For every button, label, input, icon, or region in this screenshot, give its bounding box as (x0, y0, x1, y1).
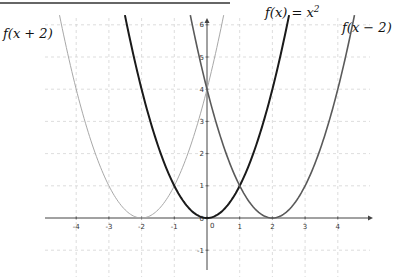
x-tick-label: -4 (73, 223, 81, 231)
x-tick-label: -1 (171, 223, 178, 231)
x-tick-label: -2 (138, 223, 145, 231)
x-tick-label: 3 (303, 223, 307, 231)
label-f-x-exponent: 2 (314, 4, 320, 14)
y-tick-label: 1 (200, 182, 204, 190)
y-tick-label: -1 (197, 247, 204, 255)
x-tick-label: 2 (270, 223, 274, 231)
x-tick-label: 4 (336, 223, 341, 231)
x-tick-label: -3 (105, 223, 112, 231)
label-f-x-minus-2: f(x − 2) (342, 21, 392, 34)
axes (45, 18, 373, 270)
y-tick-label: 4 (200, 86, 205, 94)
y-tick-label: 2 (200, 150, 204, 158)
parabola-plot: -4-3-2-112340-10123456 (0, 0, 407, 277)
y-tick-label: 3 (200, 118, 204, 126)
x-axis-arrow-icon (368, 216, 373, 221)
label-f-x-text: f(x) = x (265, 5, 314, 20)
y-axis-arrow-icon (205, 18, 210, 23)
x-tick-label: 1 (237, 223, 241, 231)
label-f-x: f(x) = x2 (265, 5, 320, 19)
label-f-x-plus-2: f(x + 2) (3, 27, 53, 40)
x-tick-label-zero: 0 (210, 222, 214, 230)
y-tick-label: 6 (200, 21, 205, 29)
